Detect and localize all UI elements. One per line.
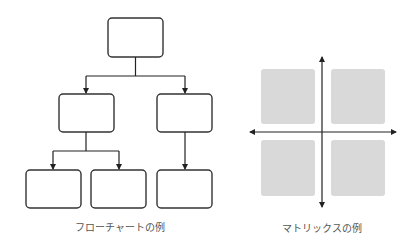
flowchart-box-leaf-2 [91,170,146,208]
flowchart-box-root [108,18,163,57]
matrix-quadrant-top-right [331,69,385,124]
matrix-quadrant-bottom-left [261,140,315,196]
flowchart-box-mid-left [59,94,114,132]
flowchart-caption: フローチャートの例 [75,219,165,234]
flowchart-box-mid-right [157,94,212,132]
flowchart [26,18,212,208]
matrix-quadrant-bottom-right [331,140,385,196]
diagram-canvas [0,0,420,246]
flowchart-box-leaf-3 [157,170,212,208]
matrix-caption: マトリックスの例 [282,220,362,235]
matrix-quadrant-top-left [261,69,315,124]
flowchart-box-leaf-1 [26,170,81,208]
